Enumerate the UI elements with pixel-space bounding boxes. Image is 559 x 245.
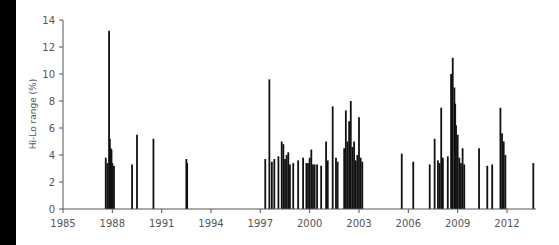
bar xyxy=(302,158,304,209)
y-tick-label: 4 xyxy=(49,150,55,161)
bar xyxy=(332,106,334,209)
bar xyxy=(462,148,464,209)
bar xyxy=(442,158,444,209)
y-tick-label: 0 xyxy=(49,204,55,215)
bar xyxy=(289,164,291,209)
bar xyxy=(320,166,322,209)
bar xyxy=(292,163,294,209)
y-tick-label: 10 xyxy=(42,69,55,80)
y-tick-label: 12 xyxy=(42,42,55,53)
x-axis-ticks: 1985198819911994199720002003200620092012 xyxy=(50,209,519,229)
bar xyxy=(305,163,307,209)
x-tick-label: 1997 xyxy=(248,218,273,229)
bars xyxy=(105,31,534,209)
bar xyxy=(356,155,358,209)
x-tick-label: 2003 xyxy=(346,218,371,229)
bar xyxy=(136,135,138,209)
x-tick-label: 1985 xyxy=(50,218,75,229)
bar xyxy=(532,163,534,209)
bar xyxy=(348,121,350,209)
bar xyxy=(455,125,457,209)
bar xyxy=(327,160,329,209)
x-tick-label: 1988 xyxy=(100,218,125,229)
bar xyxy=(287,152,289,209)
bar xyxy=(325,142,327,210)
y-tick-label: 6 xyxy=(49,123,55,134)
bar xyxy=(491,164,493,209)
bar xyxy=(478,148,480,209)
bar xyxy=(401,154,403,209)
x-tick-label: 2009 xyxy=(445,218,470,229)
bar xyxy=(503,142,505,210)
bar xyxy=(271,162,273,209)
bar xyxy=(434,139,436,209)
x-tick-label: 1991 xyxy=(149,218,174,229)
y-tick-label: 2 xyxy=(49,177,55,188)
bar xyxy=(337,162,339,209)
bar xyxy=(107,163,109,209)
bar xyxy=(504,155,506,209)
bar xyxy=(282,144,284,209)
y-axis-ticks: 02468101214 xyxy=(42,15,63,215)
bar xyxy=(350,101,352,209)
bar xyxy=(131,164,133,209)
bar xyxy=(297,160,299,209)
bar xyxy=(352,147,354,209)
bar xyxy=(358,117,360,209)
bar xyxy=(501,133,503,209)
bar xyxy=(355,160,357,209)
bar xyxy=(284,159,286,209)
bar xyxy=(345,110,347,209)
bar xyxy=(458,158,460,209)
bar xyxy=(457,135,459,209)
bar xyxy=(316,164,318,209)
bar xyxy=(463,164,465,209)
bar xyxy=(437,160,439,209)
y-axis-title: Hi-Lo range (%) xyxy=(28,79,38,149)
bar xyxy=(307,163,309,209)
x-tick-label: 2000 xyxy=(297,218,322,229)
x-tick-label: 1994 xyxy=(198,218,223,229)
bar xyxy=(310,150,312,209)
bar xyxy=(312,164,314,209)
bar xyxy=(486,166,488,209)
y-tick-label: 8 xyxy=(49,96,55,107)
bar xyxy=(460,163,462,209)
bar xyxy=(500,108,502,209)
bar xyxy=(347,142,349,210)
bar xyxy=(309,158,311,209)
bar xyxy=(439,163,441,209)
y-tick-label: 14 xyxy=(42,15,55,26)
x-tick-label: 2012 xyxy=(494,218,519,229)
bar xyxy=(113,166,115,209)
bar xyxy=(452,58,454,209)
bar xyxy=(450,74,452,209)
bar xyxy=(278,156,280,209)
bar xyxy=(360,158,362,209)
hi-lo-range-chart: 02468101214 1985198819911994199720002003… xyxy=(0,0,559,245)
bar xyxy=(268,79,270,209)
bar xyxy=(264,159,266,209)
bar xyxy=(353,142,355,210)
bar xyxy=(440,108,442,209)
bar xyxy=(273,159,275,209)
bar xyxy=(153,139,155,209)
bar xyxy=(286,155,288,209)
bar xyxy=(105,158,107,209)
bar xyxy=(281,142,283,210)
x-tick-label: 2006 xyxy=(396,218,421,229)
bar xyxy=(111,163,113,209)
bar xyxy=(314,164,316,209)
bar xyxy=(361,162,363,209)
bar xyxy=(447,156,449,209)
bar xyxy=(343,148,345,209)
bar xyxy=(429,164,431,209)
bar xyxy=(412,162,414,209)
bar xyxy=(186,163,188,209)
bar xyxy=(335,158,337,209)
